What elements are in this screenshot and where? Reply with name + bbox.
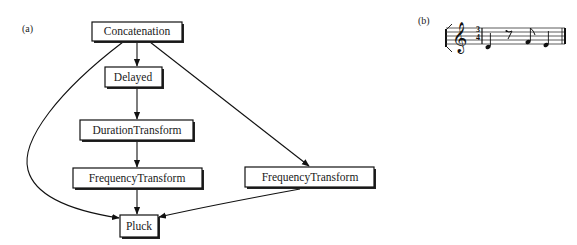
diagram-canvas: (a) (b) Concatenation Delayed DurationTr…: [0, 0, 577, 245]
node-label: FrequencyTransform: [89, 172, 186, 185]
eighth-rest-icon: [505, 30, 512, 39]
node-label: Concatenation: [104, 25, 171, 37]
note-quarter-2: [543, 31, 549, 48]
node-delayed: Delayed: [105, 67, 164, 89]
panel-label-b: (b): [418, 15, 430, 27]
treble-clef-icon: 𝄞: [452, 22, 467, 54]
node-label: Pluck: [126, 220, 152, 232]
node-duration-transform: DurationTransform: [80, 120, 195, 142]
node-label: FrequencyTransform: [262, 171, 359, 184]
node-frequency-transform-right: FrequencyTransform: [245, 167, 376, 189]
music-score: 𝄞 3 4: [446, 22, 565, 54]
time-signature-bottom: 4: [476, 33, 480, 42]
node-pluck: Pluck: [120, 215, 160, 239]
panel-label-a: (a): [22, 23, 33, 35]
edge-concat-freq-right: [150, 42, 309, 166]
note-quarter-1: [485, 33, 491, 50]
node-label: DurationTransform: [92, 124, 181, 136]
node-concatenation: Concatenation: [92, 22, 184, 43]
node-label: Delayed: [114, 71, 153, 84]
node-frequency-transform-left: FrequencyTransform: [73, 168, 204, 190]
edge-freq-right-pluck: [159, 189, 300, 217]
